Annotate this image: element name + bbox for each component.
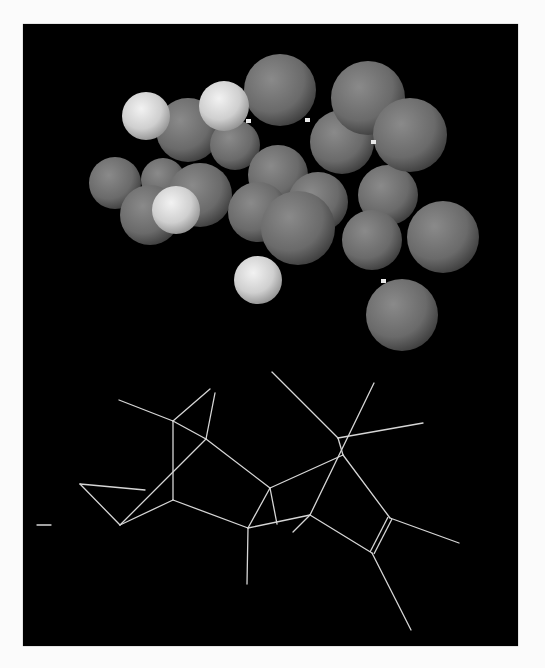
carbon-atom-sphere (407, 201, 479, 273)
hydrogen-atom-sphere (152, 186, 200, 234)
carbon-atom-sphere (244, 54, 316, 126)
single-bond-line (173, 421, 206, 439)
single-bond-line (173, 500, 248, 528)
carbon-atom-sphere (261, 191, 335, 265)
single-bond-line (272, 372, 338, 438)
double-bond-line (374, 519, 392, 554)
single-bond-line (206, 393, 215, 439)
single-bond-line (390, 518, 459, 543)
molecule-render (0, 0, 545, 668)
bond-stub (381, 279, 386, 283)
molecular-structure-figure (0, 0, 545, 668)
bond-stub (305, 118, 310, 122)
single-bond-line (247, 528, 248, 584)
single-bond-line (80, 484, 120, 525)
space-filling-model (89, 54, 479, 351)
bond-stub (246, 119, 251, 123)
carbon-atom-sphere (373, 98, 447, 172)
single-bond-line (120, 439, 206, 525)
single-bond-line (372, 553, 411, 630)
carbon-atom-sphere (366, 279, 438, 351)
single-bond-line (120, 500, 173, 525)
single-bond-line (80, 484, 145, 490)
single-bond-line (248, 488, 270, 528)
bond-stub (371, 140, 376, 144)
hydrogen-atom-sphere (199, 81, 249, 131)
carbon-atom-sphere (342, 210, 402, 270)
double-bond-line (370, 517, 388, 552)
wireframe-model (37, 372, 459, 630)
single-bond-line (119, 400, 173, 421)
single-bond-line (270, 455, 343, 488)
single-bond-line (343, 455, 390, 518)
single-bond-line (248, 515, 310, 528)
single-bond-line (310, 383, 374, 515)
hydrogen-atom-sphere (122, 92, 170, 140)
single-bond-line (310, 515, 372, 553)
single-bond-line (173, 389, 210, 421)
single-bond-line (206, 439, 270, 488)
hydrogen-atom-sphere (234, 256, 282, 304)
single-bond-line (270, 488, 277, 524)
